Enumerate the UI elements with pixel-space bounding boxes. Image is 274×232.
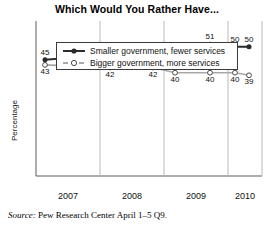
x-axis-tick-label: 2008 (112, 191, 152, 201)
x-axis-ticks: 2007200820092010 (0, 191, 274, 205)
data-point-label: 40 (167, 75, 183, 84)
legend-label-bigger-government: Bigger government, more services (90, 58, 219, 68)
x-axis-tick-label: 2009 (176, 191, 216, 201)
legend-item-smaller-government: Smaller government, fewer services (61, 45, 237, 57)
data-point-label: 40 (202, 75, 218, 84)
chart-legend: Smaller government, fewer services Bigge… (56, 42, 238, 70)
data-point-label: 39 (241, 77, 257, 86)
data-point-label: 43 (37, 67, 53, 76)
legend-label-smaller-government: Smaller government, fewer services (90, 46, 225, 56)
plot-area: Percentage 4547434851505043424240404039 (0, 16, 274, 188)
data-point-label: 45 (37, 48, 53, 57)
data-point (43, 57, 48, 62)
chart-title: Which Would You Rather Have... (0, 3, 274, 15)
data-point-label: 42 (145, 70, 161, 79)
source-text: Pew Research Center April 1–5 Q9. (38, 210, 167, 220)
x-axis-tick-label: 2010 (225, 191, 265, 201)
legend-marker-filled-line-icon (61, 46, 87, 56)
legend-item-bigger-government: Bigger government, more services (61, 57, 237, 69)
chart-figure: Which Would You Rather Have... Percentag… (0, 0, 274, 232)
data-point (247, 44, 252, 49)
data-point-label: 50 (241, 35, 257, 44)
x-axis-tick-label: 2007 (48, 191, 88, 201)
source-note: Source: Pew Research Center April 1–5 Q9… (8, 210, 167, 220)
data-point-label: 51 (202, 32, 218, 41)
legend-marker-open-line-icon (61, 58, 87, 68)
source-label: Source: (8, 210, 36, 220)
data-point-label: 42 (102, 70, 118, 79)
